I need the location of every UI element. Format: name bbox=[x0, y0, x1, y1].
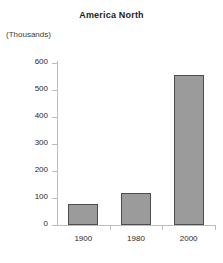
y-axis-tick-label: 500 bbox=[35, 84, 48, 93]
y-axis-tick: 300 bbox=[0, 144, 57, 145]
y-axis-tick: 100 bbox=[0, 198, 57, 199]
y-axis-tick: 600 bbox=[0, 63, 57, 64]
x-axis-tick-mark bbox=[110, 225, 111, 230]
x-axis-label: 1900 bbox=[57, 234, 110, 243]
bar bbox=[121, 193, 151, 225]
y-axis-tick: 400 bbox=[0, 117, 57, 118]
y-axis-tick-label: 200 bbox=[35, 165, 48, 174]
x-axis-tick-mark bbox=[162, 225, 163, 230]
x-axis-tick-mark bbox=[215, 225, 216, 230]
y-axis-tick: 200 bbox=[0, 171, 57, 172]
y-axis-tick-label: 400 bbox=[35, 111, 48, 120]
x-axis-line bbox=[57, 225, 215, 226]
plot-area bbox=[57, 63, 215, 225]
y-axis-unit-label: (Thousands) bbox=[6, 30, 51, 39]
y-axis-tick-label: 0 bbox=[44, 219, 48, 228]
bar bbox=[68, 204, 98, 225]
y-axis-tick-label: 100 bbox=[35, 192, 48, 201]
bar bbox=[174, 75, 204, 225]
x-axis-label: 2000 bbox=[162, 234, 215, 243]
chart-title: America North bbox=[0, 10, 223, 20]
x-axis-label: 1980 bbox=[110, 234, 163, 243]
y-axis-tick-mark bbox=[52, 225, 57, 226]
y-axis-tick: 0 bbox=[0, 225, 57, 226]
bar-chart-figure: America North (Thousands) 01002003004005… bbox=[0, 0, 223, 263]
y-axis-tick-label: 300 bbox=[35, 138, 48, 147]
y-axis-tick-label: 600 bbox=[35, 57, 48, 66]
y-axis-tick: 500 bbox=[0, 90, 57, 91]
